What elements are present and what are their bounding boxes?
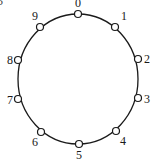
node-label-5: 5 [76,148,82,162]
node-label-8: 8 [7,53,13,67]
node-3 [135,95,142,102]
node-8 [15,57,22,64]
node-label-3: 3 [144,92,150,106]
node-6 [38,129,45,136]
node-label-1: 1 [121,9,127,23]
node-2 [135,56,142,63]
ring-diagram: 0123456789 [0,0,155,162]
node-group: 0123456789 [7,0,150,162]
node-label-0: 0 [75,0,81,10]
ring-circle [18,14,138,144]
node-label-7: 7 [7,93,13,107]
node-label-4: 4 [120,134,126,148]
node-4 [113,128,120,135]
node-7 [15,96,22,103]
node-0 [75,11,82,18]
node-label-9: 9 [32,9,38,23]
node-9 [37,24,44,31]
node-label-6: 6 [32,135,38,149]
node-1 [112,24,119,31]
node-5 [76,141,83,148]
node-label-2: 2 [144,52,150,66]
